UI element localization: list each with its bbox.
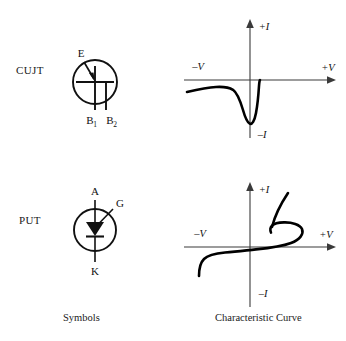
cujt-symbol: E B 1 B 2 [40, 34, 150, 144]
cujt-trace [187, 80, 260, 124]
cujt-terminal-label-emitter: E [78, 47, 85, 59]
put-axis-label-positive-v: +V [319, 229, 334, 240]
symbols-column-caption: Symbols [63, 312, 100, 323]
put-axis-label-positive-i: +I [259, 184, 270, 195]
cujt-axis-label-negative-i: –I [257, 129, 267, 140]
put-x-axis-arrowhead [327, 243, 336, 251]
cujt-x-axis-arrowhead [327, 76, 336, 84]
cujt-axis-label-negative-v: –V [191, 61, 205, 72]
cujt-y-axis-arrowhead [246, 19, 254, 28]
row-label-put: PUT [19, 214, 41, 226]
put-symbol: A G K [40, 182, 150, 292]
put-terminal-label-anode: A [91, 185, 99, 197]
put-axis-label-negative-v: –V [193, 228, 207, 239]
cujt-terminal-subscript-base-two: 2 [113, 120, 117, 129]
put-characteristic-curve: –V +V +I –I [178, 175, 346, 315]
put-y-axis-arrowhead [246, 182, 254, 191]
cujt-axis-label-positive-i: +I [259, 21, 270, 32]
cujt-axis-label-positive-v: +V [321, 62, 336, 73]
put-trace [199, 222, 303, 276]
cujt-terminal-subscript-base-one: 1 [93, 120, 97, 129]
put-diode-triangle [86, 222, 104, 236]
put-terminal-label-cathode: K [91, 265, 99, 277]
put-terminal-label-gate: G [116, 197, 124, 209]
cujt-characteristic-curve: –V +V +I –I [178, 10, 346, 150]
transistor-symbols-and-curves-figure: CUJT PUT E B 1 B 2 A [0, 0, 346, 341]
characteristic-curve-column-caption: Characteristic Curve [215, 312, 302, 323]
put-axis-label-negative-i: –I [258, 288, 268, 299]
